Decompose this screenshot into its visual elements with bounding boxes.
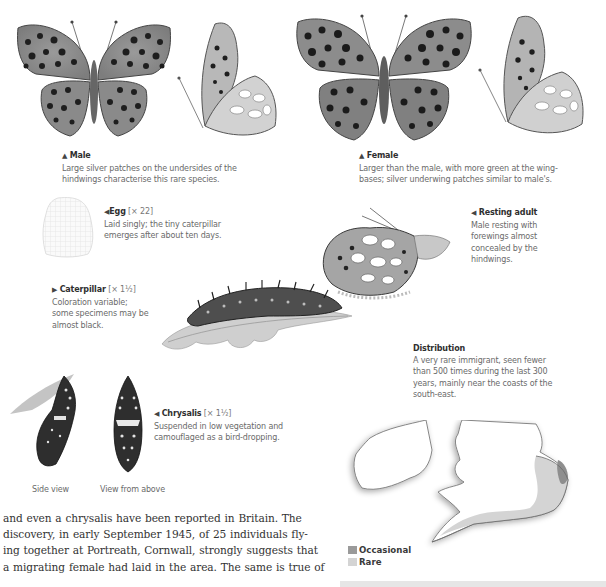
distribution-map: [340, 420, 606, 550]
resting-adult-text-line2: forewings almost: [471, 231, 581, 243]
egg-text-line2: emerges after about ten days.: [104, 230, 254, 242]
chrysalis-title: Chrysalis: [162, 409, 202, 418]
egg-caption: ◀Egg [× 22] Laid singly; the tiny caterp…: [104, 206, 254, 242]
chrysalis-side-view-illustration: [8, 370, 84, 470]
resting-adult-text-line3: concealed by the: [471, 243, 581, 255]
resting-adult-caption: ◀ Resting adult Male resting with forewi…: [471, 207, 581, 266]
caterpillar-text-line3: almost black.: [52, 320, 162, 332]
male-text-line1: Large silver patches on the undersides o…: [62, 163, 262, 175]
female-upperside-illustration: [292, 10, 476, 142]
sidebar-panel-edge: [340, 581, 606, 587]
body-text-line1: and even a chrysalis have been reported …: [3, 510, 333, 526]
resting-adult-title: Resting adult: [479, 208, 538, 217]
resting-adult-text-line4: hindwings.: [471, 254, 581, 266]
male-title: Male: [70, 151, 91, 160]
resting-adult-text-line1: Male resting with: [471, 220, 581, 232]
female-text-line2: bases; silver underwing patches similar …: [359, 174, 579, 186]
caterpillar-title: Caterpillar: [60, 285, 106, 294]
chrysalis-top-view-label: View from above: [100, 484, 165, 496]
legend-label-rare: Rare: [359, 557, 381, 567]
chrysalis-scale: [× 1½]: [204, 409, 231, 418]
egg-title: Egg: [109, 207, 125, 216]
legend-swatch-rare: [348, 558, 357, 566]
map-legend: Occasional Rare: [348, 544, 411, 568]
distribution-text-line4: south-east.: [413, 389, 553, 401]
caterpillar-caption: ▶ Caterpillar [× 1½] Coloration variable…: [52, 284, 162, 331]
distribution-text-line3: years, mainly near the coasts of the: [413, 378, 553, 390]
distribution-text-line2: than 500 times during the last 300: [413, 366, 553, 378]
body-text-line4: a migrating female had laid in the area.…: [3, 559, 333, 575]
body-text: and even a chrysalis have been reported …: [3, 510, 333, 575]
egg-scale: [× 22]: [128, 207, 153, 216]
chrysalis-side-view-label: Side view: [32, 484, 69, 496]
legend-label-occasional: Occasional: [359, 545, 411, 555]
legend-swatch-occasional: [348, 546, 357, 554]
male-caption: ▲ Male Large silver patches on the under…: [62, 150, 262, 186]
right-arrow-icon: ▶: [52, 286, 57, 294]
up-arrow-icon: ▲: [62, 152, 67, 160]
caterpillar-text-line2: some specimens may be: [52, 308, 162, 320]
left-arrow-icon: ◀: [154, 410, 159, 418]
body-text-line2: discovery, in early September 1945, of 2…: [3, 526, 333, 542]
caterpillar-text-line1: Coloration variable;: [52, 297, 162, 309]
caterpillar-scale: [× 1½]: [108, 285, 135, 294]
up-arrow-icon: ▲: [359, 152, 364, 160]
left-arrow-icon: ◀: [471, 209, 476, 217]
male-upperside-illustration: [14, 18, 174, 140]
chrysalis-top-view-illustration: [108, 374, 148, 474]
body-text-line3: ing together at Portreath, Cornwall, str…: [3, 542, 333, 558]
chrysalis-caption: ◀ Chrysalis [× 1½] Suspended in low vege…: [154, 408, 304, 444]
chrysalis-text-line2: camouflaged as a bird-dropping.: [154, 432, 304, 444]
male-underside-illustration: [175, 18, 280, 140]
caterpillar-illustration: [158, 278, 354, 360]
map-ireland: [354, 420, 432, 489]
female-text-line1: Larger than the male, with more green at…: [359, 163, 579, 175]
male-text-line2: hindwings characterise this rare species…: [62, 174, 262, 186]
female-underside-illustration: [476, 10, 588, 142]
legend-item-rare: Rare: [348, 556, 411, 568]
legend-item-occasional: Occasional: [348, 544, 411, 556]
distribution-title: Distribution: [413, 344, 465, 353]
egg-illustration: [40, 196, 96, 258]
female-title: Female: [367, 151, 399, 160]
egg-text-line1: Laid singly; the tiny caterpillar: [104, 219, 254, 231]
female-caption: ▲ Female Larger than the male, with more…: [359, 150, 579, 186]
chrysalis-text-line1: Suspended in low vegetation and: [154, 421, 304, 433]
distribution-caption: Distribution A very rare immigrant, seen…: [413, 343, 553, 401]
distribution-text-line1: A very rare immigrant, seen fewer: [413, 355, 553, 367]
